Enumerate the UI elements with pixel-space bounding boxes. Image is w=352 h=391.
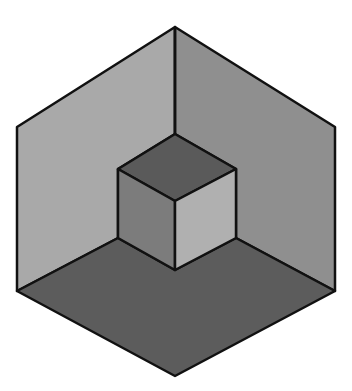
isometric-cube-illusion xyxy=(0,0,352,391)
illusion-figure xyxy=(0,0,352,391)
